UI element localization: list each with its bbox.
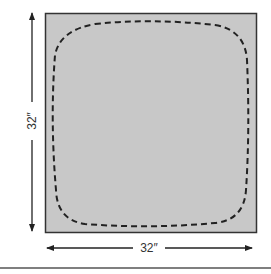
diagram-svg: 32″ 32″: [0, 0, 271, 274]
height-label: 32″: [25, 111, 39, 129]
square-panel: [46, 14, 257, 233]
width-label: 32″: [140, 241, 158, 255]
pattern-diagram: 32″ 32″: [0, 0, 271, 274]
